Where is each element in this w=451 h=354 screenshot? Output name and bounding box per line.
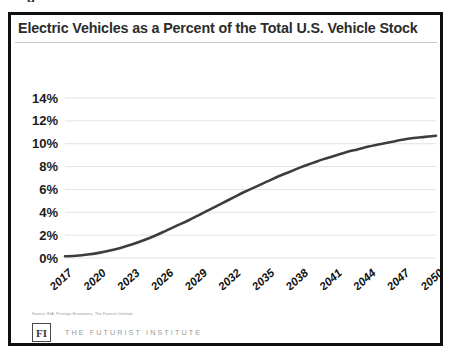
clipped-glyph-artifact: g — [27, 0, 35, 2]
chart-figure-frame: Electric Vehicles as a Percent of the To… — [8, 12, 443, 346]
x-axis-tick-label: 2044 — [350, 266, 378, 290]
brand-row: FI THE FUTURIST INSTITUTE — [32, 323, 202, 342]
x-axis-tick-label: 2017 — [47, 266, 75, 290]
gridlines — [65, 98, 436, 258]
line-chart-svg: 14%12%10%8%6%4%2%0% 20172020202320262029… — [11, 45, 440, 290]
y-axis-tick-label: 4% — [39, 205, 58, 220]
plot-area: 14%12%10%8%6%4%2%0% 20172020202320262029… — [11, 45, 440, 290]
y-axis-tick-label: 8% — [39, 159, 58, 174]
y-axis-tick-label: 0% — [39, 251, 58, 266]
x-axis-tick-label: 2050 — [418, 266, 440, 290]
brand-name-label: THE FUTURIST INSTITUTE — [65, 328, 202, 337]
ev-share-line-series — [65, 136, 436, 257]
x-axis-tick-label: 2032 — [215, 266, 243, 290]
x-axis-tick-label: 2035 — [249, 266, 277, 290]
futurist-institute-logo: FI — [32, 323, 51, 342]
x-axis-tick-label: 2041 — [316, 267, 344, 290]
x-axis-tick-label: 2038 — [283, 266, 311, 290]
y-axis-tick-label: 14% — [32, 91, 58, 106]
y-axis-tick-label: 2% — [39, 228, 58, 243]
y-axis-tick-label: 10% — [32, 136, 58, 151]
y-axis-tick-label: 6% — [39, 182, 58, 197]
y-axis-tick-labels: 14%12%10%8%6%4%2%0% — [32, 91, 58, 266]
x-axis-tick-label: 2023 — [114, 266, 142, 290]
y-axis-tick-label: 12% — [32, 113, 58, 128]
x-axis-tick-labels: 2017202020232026202920322035203820412044… — [47, 266, 440, 290]
x-axis-tick-label: 2029 — [181, 266, 209, 290]
x-axis-tick-label: 2026 — [148, 266, 176, 290]
x-axis-tick-label: 2047 — [384, 266, 412, 290]
x-axis-tick-label: 2020 — [80, 266, 108, 290]
title-separator-rule — [15, 42, 437, 43]
chart-title: Electric Vehicles as a Percent of the To… — [11, 15, 440, 41]
source-note: Source: EIA, Prestige Economics, The Fut… — [32, 312, 133, 316]
